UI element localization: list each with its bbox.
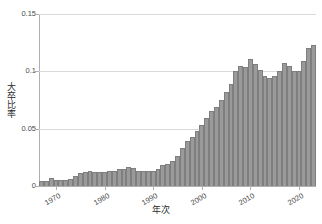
x-tick-mark [105, 186, 106, 190]
x-axis-title: 年次 [0, 205, 322, 215]
x-tick-mark [56, 186, 57, 190]
y-tick-label: 0.1 [12, 68, 36, 76]
x-tick-mark [153, 186, 154, 190]
x-tick-mark [250, 186, 251, 190]
bar [311, 45, 316, 186]
x-tick-mark [299, 186, 300, 190]
y-tick-mark [35, 186, 39, 187]
bar-series [39, 14, 316, 186]
y-tick-label: 0 [12, 182, 36, 190]
bar-chart-figure: 大卒比率 00.050.10.15 1970198019902000201020… [0, 0, 322, 224]
y-tick-mark [35, 14, 39, 15]
x-tick-mark [202, 186, 203, 190]
x-axis-line [39, 186, 316, 187]
y-axis-tick-labels: 00.050.10.15 [12, 0, 36, 224]
plot-area [39, 14, 316, 186]
y-tick-mark [35, 129, 39, 130]
y-tick-mark [35, 71, 39, 72]
y-tick-label: 0.15 [12, 10, 36, 18]
y-tick-label: 0.05 [12, 125, 36, 132]
